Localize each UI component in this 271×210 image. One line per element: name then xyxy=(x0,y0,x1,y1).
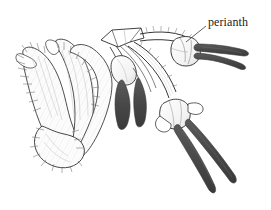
perianth-lower-side-lobe xyxy=(188,103,203,115)
botanical-figure: perianth xyxy=(0,0,271,210)
perianth-upper-cup xyxy=(171,36,200,66)
illustration-canvas xyxy=(0,0,271,210)
perianth-label: perianth xyxy=(208,16,248,28)
